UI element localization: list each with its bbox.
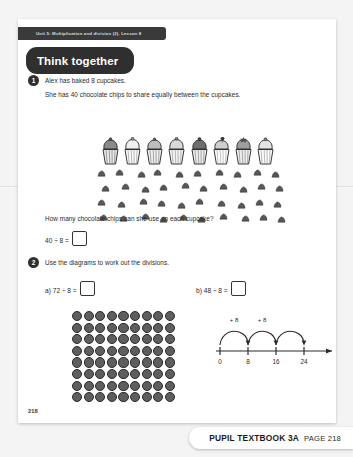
footer-book-label: PUPIL TEXTBOOK 3A <box>209 433 299 443</box>
page-number: 218 <box>28 408 38 414</box>
array-dot <box>130 369 140 379</box>
cupcake-icon <box>255 137 276 166</box>
array-dot <box>107 357 117 367</box>
array-dot <box>95 369 105 379</box>
array-dot <box>72 357 82 367</box>
question-1-line-2: She has 40 chocolate chips to share equa… <box>45 91 240 98</box>
array-dot <box>142 369 152 379</box>
cupcake-icon <box>189 137 210 166</box>
array-dot <box>107 346 117 356</box>
array-dot <box>165 323 175 333</box>
question-1-line-1: Alex has baked 8 cupcakes. <box>45 77 126 84</box>
number-line-jump-label: + 8 <box>258 317 267 323</box>
unit-lesson-strip: Unit 5: Multiplication and division (2),… <box>18 27 166 40</box>
question-2-number: 2 <box>32 259 36 266</box>
array-dot <box>72 392 82 402</box>
array-dot <box>84 357 94 367</box>
array-dot <box>118 334 128 344</box>
cupcake-icon <box>122 137 143 166</box>
array-dot <box>142 381 152 391</box>
array-dot <box>118 381 128 391</box>
array-dot <box>84 369 94 379</box>
footer-banner: PUPIL TEXTBOOK 3A PAGE 218 <box>189 427 353 449</box>
array-dot <box>130 346 140 356</box>
question-2b-label: b) <box>196 287 202 294</box>
array-dot <box>118 323 128 333</box>
array-dot <box>107 392 117 402</box>
array-dot <box>165 334 175 344</box>
number-line-tick-label: 16 <box>272 358 280 365</box>
array-dot <box>118 311 128 321</box>
array-dot <box>118 392 128 402</box>
array-dot <box>165 392 175 402</box>
array-dot <box>118 346 128 356</box>
array-dot <box>118 357 128 367</box>
array-dot <box>165 346 175 356</box>
think-together-label: Think together <box>37 55 118 67</box>
array-dot <box>84 346 94 356</box>
cupcake-icon <box>233 137 254 166</box>
array-dot <box>84 381 94 391</box>
array-dot <box>165 381 175 391</box>
array-dot <box>165 357 175 367</box>
array-dot <box>107 369 117 379</box>
array-dot <box>72 346 82 356</box>
screenshot-root: Unit 5: Multiplication and division (2),… <box>0 0 353 457</box>
array-dot <box>72 323 82 333</box>
array-dot <box>142 346 152 356</box>
question-1-equation-row: 40 ÷ 8 = <box>45 231 87 246</box>
question-1-badge: 1 <box>28 75 39 86</box>
array-dot <box>130 357 140 367</box>
cupcake-row-illustration <box>100 136 276 166</box>
question-1-equation: 40 ÷ 8 = <box>45 237 69 244</box>
number-line-jump-label: + 8 <box>230 317 239 323</box>
question-2-instruction: Use the diagrams to work out the divisio… <box>45 259 169 266</box>
question-1-answer-box[interactable] <box>72 231 87 246</box>
array-dot <box>107 311 117 321</box>
array-dot <box>95 323 105 333</box>
array-dot <box>130 334 140 344</box>
number-line-diagram: + 8 + 8 0 8 16 24 <box>210 307 350 369</box>
think-together-banner: Think together <box>26 47 134 74</box>
question-2a-answer-box[interactable] <box>80 281 95 296</box>
array-dot <box>142 311 152 321</box>
question-2b-row: b) 48 ÷ 8 = <box>196 281 246 296</box>
array-dot <box>153 323 163 333</box>
array-dot <box>84 334 94 344</box>
array-dot <box>153 369 163 379</box>
question-2a-row: a) 72 ÷ 8 = <box>45 281 95 296</box>
array-dot <box>142 392 152 402</box>
array-dot <box>95 334 105 344</box>
array-dot <box>142 334 152 344</box>
array-dot <box>130 392 140 402</box>
array-dot <box>153 311 163 321</box>
array-dot <box>153 357 163 367</box>
question-1-prompt: How many chocolate chips can she use on … <box>45 215 214 222</box>
array-dot <box>153 392 163 402</box>
array-dot <box>165 369 175 379</box>
cupcake-icon <box>100 137 121 166</box>
array-dot <box>95 346 105 356</box>
number-line-tick-label: 0 <box>218 358 222 365</box>
array-dot <box>72 334 82 344</box>
cupcake-icon <box>166 137 187 166</box>
array-dot <box>95 311 105 321</box>
question-2b-equation: 48 ÷ 8 = <box>204 287 228 294</box>
array-dot <box>72 369 82 379</box>
dot-array-diagram <box>72 311 176 404</box>
array-dot <box>95 392 105 402</box>
textbook-page: Unit 5: Multiplication and division (2),… <box>18 19 336 423</box>
array-dot <box>153 334 163 344</box>
array-dot <box>153 381 163 391</box>
array-dot <box>165 311 175 321</box>
array-dot <box>107 381 117 391</box>
array-dot <box>153 346 163 356</box>
question-2-badge: 2 <box>28 257 39 268</box>
number-line-tick-label: 8 <box>246 358 250 365</box>
array-dot <box>142 357 152 367</box>
question-2a-equation: 72 ÷ 8 = <box>53 287 77 294</box>
array-dot <box>84 311 94 321</box>
array-dot <box>118 369 128 379</box>
question-2b-answer-box[interactable] <box>231 281 246 296</box>
array-dot <box>130 311 140 321</box>
